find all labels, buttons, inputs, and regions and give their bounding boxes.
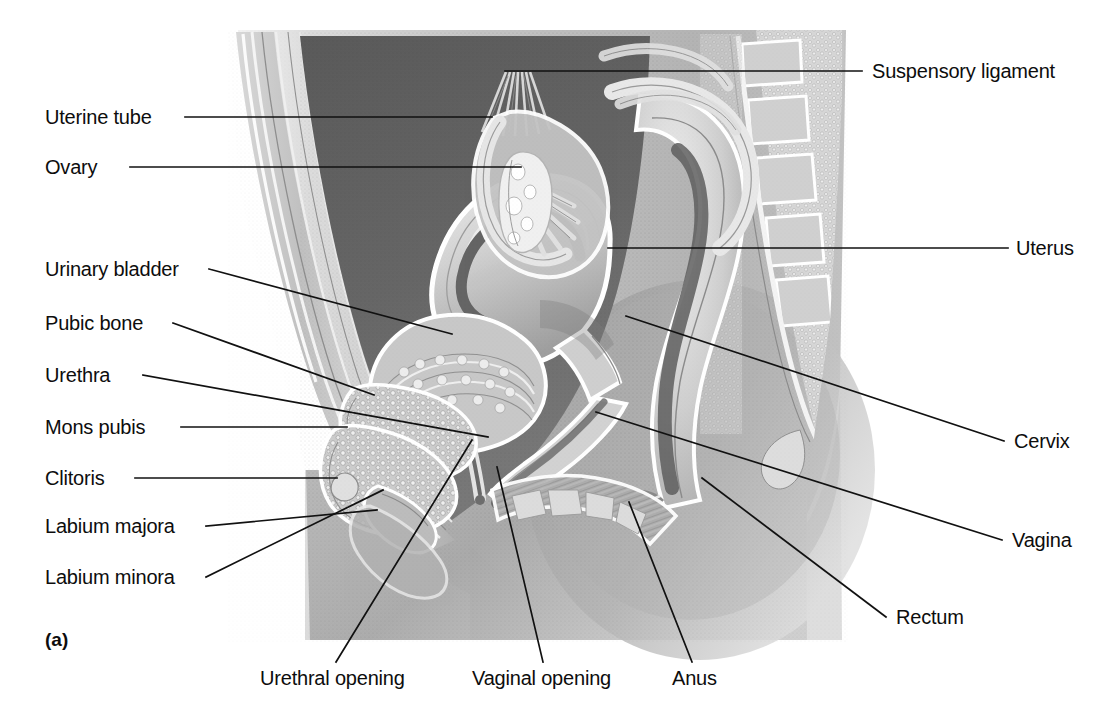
label-urinary-bladder: Urinary bladder xyxy=(45,259,179,279)
label-rectum: Rectum xyxy=(896,607,964,627)
label-mons-pubis: Mons pubis xyxy=(45,417,145,437)
anatomy-illustration xyxy=(228,30,875,660)
label-labium-majora: Labium majora xyxy=(45,516,175,536)
label-urethral-opening: Urethral opening xyxy=(260,668,405,688)
label-ovary: Ovary xyxy=(45,157,97,177)
label-urethra: Urethra xyxy=(45,365,110,385)
figure-page: Uterine tubeOvaryUrinary bladderPubic bo… xyxy=(0,0,1110,712)
label-labium-minora: Labium minora xyxy=(45,567,175,587)
label-cervix: Cervix xyxy=(1014,431,1069,451)
label-uterine-tube: Uterine tube xyxy=(45,107,152,127)
label-vaginal-opening: Vaginal opening xyxy=(472,668,611,688)
label-anus: Anus xyxy=(672,668,717,688)
label-clitoris: Clitoris xyxy=(45,468,105,488)
label-uterus: Uterus xyxy=(1016,238,1074,258)
label-pubic-bone: Pubic bone xyxy=(45,313,143,333)
label-suspensory-ligament: Suspensory ligament xyxy=(872,61,1055,81)
label-vagina: Vagina xyxy=(1012,530,1072,550)
panel-letter: (a) xyxy=(45,629,68,651)
